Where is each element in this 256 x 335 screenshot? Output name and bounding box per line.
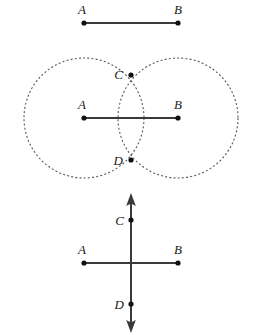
label-d-panel2: D [113,153,124,168]
label-b-panel2: B [174,97,182,112]
panel-given-segment: A B [77,2,182,26]
construction-diagram-svg: A B A B C D A B [0,0,256,335]
point-a-panel2 [81,115,86,120]
label-b-panel3: B [174,242,182,257]
point-b-panel2 [175,115,180,120]
label-a-panel2: A [77,97,86,112]
point-d-panel2 [128,157,133,162]
point-c-panel3 [128,217,133,222]
geometry-figure: A B A B C D A B [0,0,256,335]
label-d-panel3: D [114,297,125,312]
point-c-panel2 [128,72,133,77]
point-a-panel3 [81,260,86,265]
label-c-panel2: C [114,67,123,82]
panel-arc-intersection: A B C D [24,58,238,178]
label-a-panel3: A [77,242,86,257]
panel-perpendicular-bisector: A B C D [77,193,182,333]
label-a-panel1: A [77,2,86,17]
point-b-panel3 [175,260,180,265]
point-a-panel1 [81,20,86,25]
label-b-panel1: B [174,2,182,17]
label-c-panel3: C [115,213,124,228]
point-b-panel1 [175,20,180,25]
point-d-panel3 [128,301,133,306]
